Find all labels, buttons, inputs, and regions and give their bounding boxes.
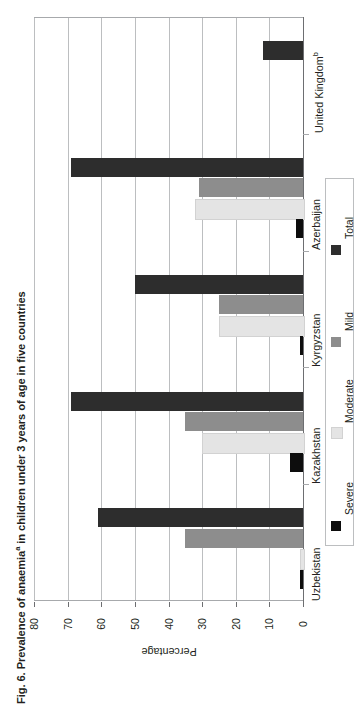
axis-tick-label: 10 bbox=[263, 611, 275, 637]
axis-tick bbox=[269, 602, 270, 607]
bar-total-uzbekistan bbox=[98, 508, 303, 527]
figure-title-superscript: a bbox=[13, 547, 22, 551]
bar-severe-azerbaijan bbox=[296, 219, 303, 238]
figure-title-text-suffix: in children under 3 years of age in five… bbox=[15, 291, 27, 546]
bar-total-kyrgyzstan bbox=[135, 275, 303, 294]
axis-tick bbox=[202, 602, 203, 607]
legend-label-severe: Severe bbox=[343, 425, 356, 515]
value-axis-title: Percentage bbox=[119, 646, 219, 658]
axis-tick-label: 80 bbox=[28, 611, 40, 637]
axis-tick-label: 50 bbox=[129, 611, 141, 637]
axis-tick-label: 70 bbox=[62, 611, 74, 637]
legend-swatch-severe bbox=[331, 521, 341, 531]
bar-severe-uzbekistan bbox=[300, 570, 303, 589]
bar-severe-kyrgyzstan bbox=[300, 336, 303, 355]
legend-swatch-total bbox=[331, 245, 341, 255]
bar-severe-kazakhstan bbox=[290, 453, 303, 472]
axis-tick bbox=[169, 602, 170, 607]
legend-label-total: Total bbox=[343, 149, 356, 239]
legend-label-mild: Mild bbox=[343, 241, 356, 331]
axis-tick bbox=[34, 602, 35, 607]
category-label-uzbekistan: Uzbekistan bbox=[309, 451, 323, 601]
gridline bbox=[68, 18, 69, 600]
legend: SevereModerateMildTotal bbox=[325, 178, 354, 546]
axis-tick-label: 60 bbox=[95, 611, 107, 637]
bar-moderate-kazakhstan bbox=[202, 433, 305, 454]
category-axis-line bbox=[303, 17, 304, 602]
bar-total-united-kingdom bbox=[263, 41, 303, 60]
axis-tick-label: 20 bbox=[230, 611, 242, 637]
bar-moderate-kyrgyzstan bbox=[219, 316, 305, 337]
legend-label-moderate: Moderate bbox=[343, 333, 356, 423]
axis-tick bbox=[135, 602, 136, 607]
figure-title-text: Fig. 6. Prevalence of anaemia bbox=[15, 551, 27, 704]
gridline bbox=[34, 18, 35, 600]
bar-total-kazakhstan bbox=[71, 392, 303, 411]
legend-swatch-moderate bbox=[331, 427, 343, 439]
figure-title: Fig. 6. Prevalence of anaemiaa in childr… bbox=[8, 4, 28, 704]
bar-total-azerbaijan bbox=[71, 158, 303, 177]
axis-tick bbox=[236, 602, 237, 607]
axis-tick-label: 40 bbox=[163, 611, 175, 637]
axis-tick bbox=[68, 602, 69, 607]
bar-mild-kazakhstan bbox=[185, 412, 303, 431]
bar-mild-kyrgyzstan bbox=[219, 295, 303, 314]
bar-moderate-uzbekistan bbox=[300, 549, 305, 570]
bar-mild-uzbekistan bbox=[185, 529, 303, 548]
legend-swatch-mild bbox=[331, 337, 341, 347]
axis-tick bbox=[303, 602, 304, 607]
axis-tick-label: 0 bbox=[297, 611, 309, 637]
bar-mild-azerbaijan bbox=[199, 178, 303, 197]
bar-moderate-azerbaijan bbox=[195, 199, 305, 220]
figure-container: Fig. 6. Prevalence of anaemiaa in childr… bbox=[0, 0, 356, 717]
axis-tick bbox=[101, 602, 102, 607]
axis-tick-label: 30 bbox=[196, 611, 208, 637]
